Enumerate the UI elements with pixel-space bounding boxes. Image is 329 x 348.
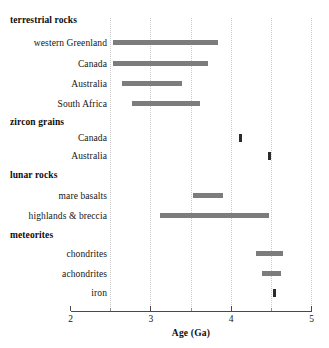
range-bar [193,193,224,198]
x-tick-label: 2 [68,314,73,324]
group-label: terrestrial rocks [10,15,77,25]
range-bar [256,251,283,256]
range-bar [262,271,280,276]
range-bar [268,152,271,160]
range-bar [122,81,182,86]
range-bar [132,101,200,106]
range-bar [113,40,218,45]
minor-tick [110,308,111,311]
row-label: Australia [71,151,107,161]
minor-tick [191,308,192,311]
gridline [231,18,232,311]
age-range-chart: terrestrial rockswestern GreenlandCanada… [0,0,329,348]
x-tick-label: 5 [309,314,314,324]
axis-line [71,311,312,312]
gridline [271,18,272,311]
range-bar [160,213,268,218]
row-label: Australia [71,79,107,89]
row-label: chondrites [66,249,107,259]
row-label: Canada [78,59,107,69]
row-label: highlands & breccia [29,211,107,221]
row-label: South Africa [58,99,107,109]
row-label: Canada [78,133,107,143]
range-bar [239,134,242,142]
row-label: achondrites [62,269,107,279]
gridline [110,18,111,311]
x-tick-label: 3 [148,314,153,324]
group-label: zircon grains [10,117,64,127]
x-axis-title: Age (Ga) [172,328,210,339]
row-label: mare basalts [59,191,107,201]
major-tick [150,306,151,311]
range-bar [273,289,276,297]
major-tick [70,306,71,311]
minor-tick [271,308,272,311]
major-tick [311,306,312,311]
gridline [311,18,312,311]
group-label: meteorites [10,230,53,240]
x-tick-label: 4 [229,314,234,324]
group-label: lunar rocks [10,170,57,180]
range-bar [113,61,208,66]
major-tick [231,306,232,311]
row-label: western Greenland [34,38,107,48]
row-label: iron [91,288,107,298]
